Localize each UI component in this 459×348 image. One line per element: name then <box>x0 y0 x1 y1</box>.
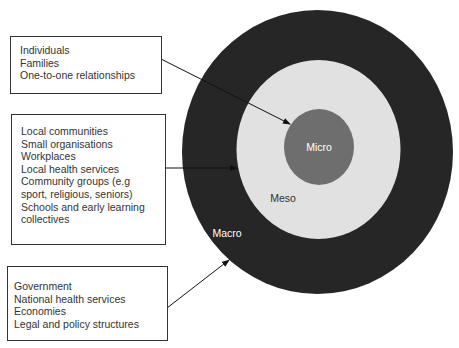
box-line: National health services <box>14 293 167 306</box>
box-line: Families <box>20 57 161 70</box>
macro-box: Government National health services Econ… <box>7 266 168 341</box>
box-line: Community groups (e.g <box>21 175 165 188</box>
micro-box: Individuals Families One-to-one relation… <box>10 36 162 94</box>
box-line: Government <box>14 280 167 293</box>
box-line: Local health services <box>21 163 165 176</box>
box-line: Schools and early learning <box>21 201 165 214</box>
box-line: Economies <box>14 305 167 318</box>
box-line: Individuals <box>20 44 161 57</box>
box-line: Small organisations <box>21 138 165 151</box>
box-line: Legal and policy structures <box>14 318 167 331</box>
arrow-macro <box>167 260 229 308</box>
macro-label: Macro <box>212 227 241 239</box>
box-line: sport, religious, seniors) <box>21 188 165 201</box>
meso-box: Local communities Small organisations Wo… <box>11 114 166 245</box>
meso-label: Meso <box>270 192 296 204</box>
box-line: One-to-one relationships <box>20 69 161 82</box>
box-line: Workplaces <box>21 150 165 163</box>
micro-label: Micro <box>306 141 332 153</box>
box-line: collectives <box>21 213 165 226</box>
box-line: Local communities <box>21 125 165 138</box>
